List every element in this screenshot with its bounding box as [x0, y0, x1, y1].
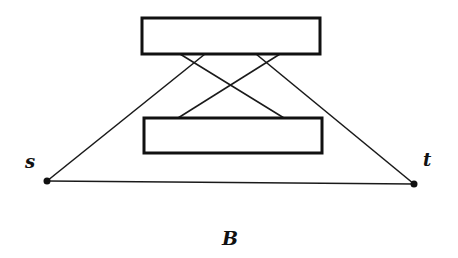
node-label-t: t	[423, 149, 432, 170]
diagram-caption: B	[221, 227, 238, 249]
node-label-s: s	[24, 151, 35, 172]
bottom-box	[144, 118, 322, 153]
edge-s-to-t	[47, 181, 414, 184]
node-s-dot	[44, 178, 51, 185]
top-box	[142, 18, 320, 54]
node-t-dot	[411, 181, 418, 188]
diagram-canvas: s t B	[0, 0, 458, 258]
